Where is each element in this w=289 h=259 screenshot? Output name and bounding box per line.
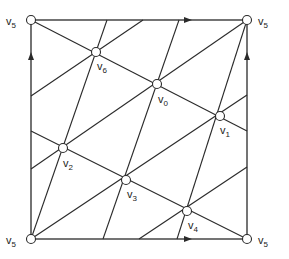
vertices [27,16,252,244]
vertex-label-v1: v1 [220,124,231,139]
vertex-v5_bl [27,235,36,244]
edge-line [103,20,179,239]
arrow-up-icon [28,52,34,60]
vertex-label-v2: v2 [63,157,74,172]
edge-identification-arrows [28,17,250,242]
vertex-v5_tl [27,16,36,25]
vertex-v5_tr [243,16,252,25]
vertex-v5_br [243,235,252,244]
vertex-v3 [122,176,131,185]
vertex-v2 [59,144,68,153]
edge-line [31,20,247,131]
vertex-label-v5_tr: v5 [258,15,269,30]
vertex-label-v5_bl: v5 [6,234,17,249]
arrow-up-icon [244,52,250,60]
arrow-right-icon [184,17,192,23]
vertex-label-v5_br: v5 [258,234,269,249]
vertex-label-v6: v6 [97,60,108,75]
square-boundary [31,20,247,239]
vertex-label-v5_tl: v5 [6,15,17,30]
vertex-v6 [92,48,101,57]
vertex-labels: v5v5v5v5v6v0v1v2v3v4 [6,15,269,249]
arrow-right-icon [184,236,192,242]
edge-line [31,20,143,96]
vertex-v1 [216,112,225,121]
vertex-label-v3: v3 [127,188,138,203]
vertex-label-v0: v0 [158,93,169,108]
vertex-v0 [153,80,162,89]
triangulation-edges [31,20,247,239]
torus-triangulation-diagram: v5v5v5v5v6v0v1v2v3v4 [0,0,289,259]
vertex-label-v4: v4 [188,219,199,234]
vertex-v4 [183,207,192,216]
